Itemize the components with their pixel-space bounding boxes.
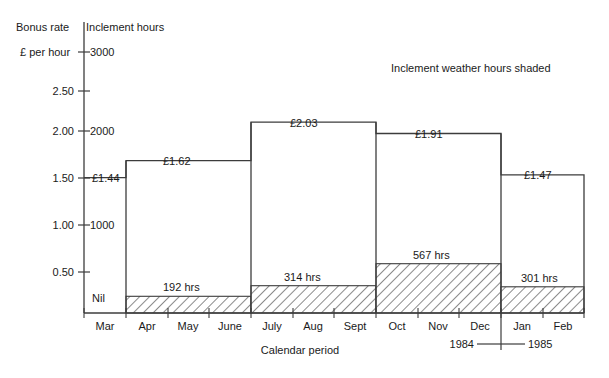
x-label-month-feb: Feb bbox=[554, 320, 573, 332]
value-label-hours-july-sept: 314 hrs bbox=[284, 271, 321, 283]
value-label-hours-jan-feb: 301 hrs bbox=[521, 272, 558, 284]
x-label-month-aug: Aug bbox=[303, 320, 323, 332]
y-label-hours-3000: 3000 bbox=[90, 46, 114, 58]
value-label-rate-apr-june: £1.62 bbox=[163, 155, 191, 167]
value-label-rate-july-sept: £2.03 bbox=[290, 117, 318, 129]
value-label-hours-apr-june: 192 hrs bbox=[163, 281, 200, 293]
hatched-band-july-sept bbox=[251, 286, 376, 313]
x-label-month-may: May bbox=[178, 320, 199, 332]
hatched-band-oct-dec bbox=[376, 264, 501, 313]
y-label-rate-2-50: 2.50 bbox=[53, 85, 74, 97]
x-label-month-apr: Apr bbox=[138, 320, 155, 332]
chart-container: Bonus rate Inclement hours £ per hour In… bbox=[0, 0, 609, 378]
x-axis-title: Calendar period bbox=[261, 344, 339, 356]
x-label-month-nov: Nov bbox=[428, 320, 448, 332]
x-label-year-1984: 1984 bbox=[450, 338, 474, 350]
y-label-hours-2000: 2000 bbox=[90, 125, 114, 137]
axis-header-inclement-hours: Inclement hours bbox=[86, 21, 165, 33]
y-label-rate-0-50: 0.50 bbox=[53, 266, 74, 278]
x-label-month-mar: Mar bbox=[96, 320, 115, 332]
legend-note: Inclement weather hours shaded bbox=[391, 62, 551, 74]
axis-header-bonus-rate: Bonus rate bbox=[16, 21, 69, 33]
axis-unit-pounds-per-hour: £ per hour bbox=[20, 46, 70, 58]
bonus-rate-inclement-hours-chart: Bonus rate Inclement hours £ per hour In… bbox=[0, 0, 609, 378]
y-label-rate-2-00: 2.00 bbox=[53, 125, 74, 137]
x-label-month-dec: Dec bbox=[470, 320, 490, 332]
x-label-month-oct: Oct bbox=[388, 320, 405, 332]
hatched-band-apr-june bbox=[126, 296, 251, 313]
value-label-hours-oct-dec: 567 hrs bbox=[413, 249, 450, 261]
value-label-hours-mar-nil: Nil bbox=[92, 292, 105, 304]
value-label-rate-oct-dec: £1.91 bbox=[415, 128, 443, 140]
x-label-month-sept: Sept bbox=[344, 320, 367, 332]
value-label-rate-jan-feb: £1.47 bbox=[524, 169, 552, 181]
y-label-hours-1000: 1000 bbox=[90, 219, 114, 231]
x-label-month-jan: Jan bbox=[513, 320, 531, 332]
x-label-year-1985: 1985 bbox=[528, 338, 552, 350]
x-label-month-july: July bbox=[262, 320, 282, 332]
value-label-rate-mar: £1.44 bbox=[92, 172, 120, 184]
x-label-month-june: June bbox=[218, 320, 242, 332]
y-label-rate-1-50: 1.50 bbox=[53, 172, 74, 184]
y-label-rate-1-00: 1.00 bbox=[53, 219, 74, 231]
